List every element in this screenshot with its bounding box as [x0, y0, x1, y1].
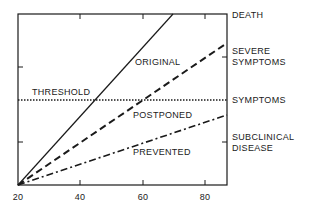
label-threshold: THRESHOLD: [32, 87, 90, 97]
level-symptoms: SYMPTOMS: [232, 95, 286, 105]
series-postponed: [18, 43, 227, 185]
x-tick-label: 60: [138, 192, 149, 202]
x-tick-label: 20: [13, 192, 24, 202]
x-tick-label: 40: [75, 192, 86, 202]
chart: 20 40 60 80 ORIGINAL POSTPONED PREVENTED…: [0, 0, 309, 213]
level-subclinical-2: DISEASE: [232, 143, 273, 153]
label-original: ORIGINAL: [135, 57, 180, 67]
label-postponed: POSTPONED: [133, 110, 192, 120]
level-severe-2: SYMPTOMS: [232, 57, 286, 67]
level-death: DEATH: [232, 10, 263, 20]
level-subclinical-1: SUBCLINICAL: [232, 132, 294, 142]
level-severe-1: SEVERE: [232, 46, 270, 56]
label-prevented: PREVENTED: [133, 147, 191, 157]
x-tick-label: 80: [200, 192, 211, 202]
